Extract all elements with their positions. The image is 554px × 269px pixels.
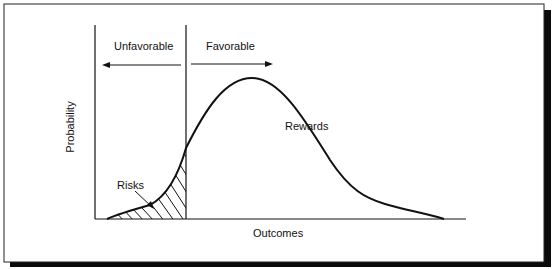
x-axis-label: Outcomes xyxy=(253,227,303,239)
y-axis-label: Probability xyxy=(64,101,76,152)
diagram-frame: Unfavorable Favorable Rewards Risks Outc… xyxy=(0,0,554,269)
frame-border xyxy=(4,4,544,262)
rewards-label: Rewards xyxy=(285,120,328,132)
unfavorable-label: Unfavorable xyxy=(114,40,173,52)
risks-label: Risks xyxy=(117,179,144,191)
favorable-label: Favorable xyxy=(206,40,255,52)
